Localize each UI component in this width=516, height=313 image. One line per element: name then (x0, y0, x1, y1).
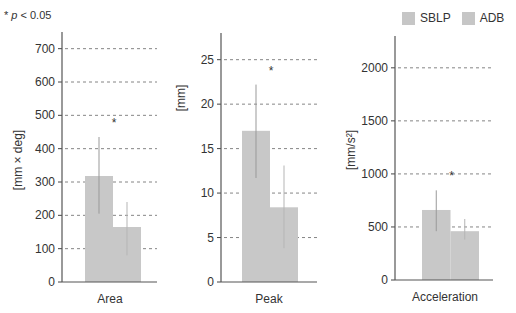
y-tick-label: 5 (207, 231, 214, 245)
y-tick-label: 1500 (361, 114, 388, 128)
y-tick-label: 500 (35, 108, 55, 122)
significance-star: * (112, 116, 117, 130)
y-tick-label: 0 (207, 275, 214, 289)
y-tick-label: 700 (35, 42, 55, 56)
y-tick-label: 15 (201, 142, 215, 156)
y-tick-label: 400 (35, 142, 55, 156)
significance-star: * (449, 169, 454, 183)
y-tick-label: 20 (201, 97, 215, 111)
y-tick-label: 100 (35, 242, 55, 256)
y-tick-label: 600 (35, 75, 55, 89)
x-axis-label: Area (97, 292, 123, 306)
chart-canvas: 0100200300400500600700*Area[mm × deg]051… (0, 0, 516, 313)
y-tick-label: 500 (368, 220, 388, 234)
y-tick-label: 2000 (361, 61, 388, 75)
y-tick-label: 300 (35, 175, 55, 189)
y-axis-label: [mm × deg] (11, 130, 25, 190)
y-tick-label: 25 (201, 53, 215, 67)
y-tick-label: 10 (201, 186, 215, 200)
x-axis-label: Peak (255, 292, 283, 306)
y-tick-label: 0 (48, 275, 55, 289)
x-axis-label: Acceleration (412, 290, 478, 304)
y-tick-label: 0 (381, 273, 388, 287)
y-axis-label: [mm/s²] (344, 130, 358, 170)
y-tick-label: 1000 (361, 167, 388, 181)
significance-star: * (269, 64, 274, 78)
y-tick-label: 200 (35, 208, 55, 222)
y-axis-label: [mm] (174, 85, 188, 112)
